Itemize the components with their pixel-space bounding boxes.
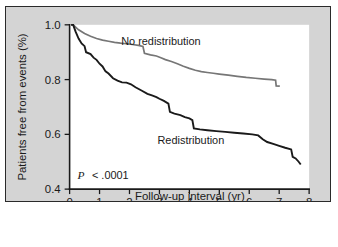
y-axis-ticks: 0.40.60.81.0 [45, 19, 70, 195]
x-tick-label: 2 [126, 196, 132, 201]
y-tick-label: 0.4 [45, 183, 61, 195]
x-tick-label: 7 [276, 196, 282, 201]
plot-area-background [70, 25, 310, 189]
x-tick-label: 0 [66, 196, 72, 201]
y-axis-title: Patients free from events (%) [16, 33, 28, 180]
x-tick-label: 8 [306, 196, 312, 201]
y-tick-label: 0.6 [45, 128, 61, 140]
series-label-redistribution: Redistribution [157, 134, 224, 146]
x-tick-label: 1 [96, 196, 102, 201]
pvalue-text: < .0001 [92, 169, 129, 181]
y-tick-label: 0.8 [45, 74, 61, 86]
figure-panel: 0.40.60.81.0 012345678 No redistribution… [5, 6, 331, 202]
pvalue-symbol: P [77, 169, 85, 181]
x-tick-label: 6 [246, 196, 252, 201]
y-tick-label: 1.0 [45, 19, 61, 31]
kaplan-meier-chart: 0.40.60.81.0 012345678 No redistribution… [6, 7, 330, 201]
series-label-no-redistribution: No redistribution [121, 35, 201, 47]
x-axis-title: Follow-up interval (yr) [135, 190, 245, 201]
